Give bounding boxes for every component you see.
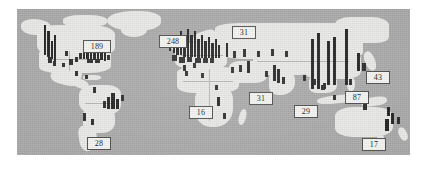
bar-eu-7 (190, 35, 193, 57)
bar-eurasia-4 (257, 51, 260, 57)
bar-eu-15 (218, 45, 220, 58)
bar-africa-5 (217, 97, 220, 106)
callout-189: 189 (83, 40, 111, 53)
bar-sa-chile-1 (83, 113, 86, 121)
bar-ea-japan-1 (357, 53, 360, 71)
bar-na-west-6 (53, 61, 56, 66)
bar-na-east-7 (104, 53, 106, 61)
bar-eu-12 (208, 37, 210, 58)
landmass-new-zealand (396, 126, 409, 142)
bar-eu-16 (172, 55, 177, 61)
bar-na-east-9 (95, 59, 100, 63)
bar-na-west-1 (44, 25, 46, 55)
bar-na-interior-3 (75, 57, 78, 62)
world-map-plate: 189 248 31 43 87 16 31 29 28 17 (17, 9, 410, 155)
bar-au-1 (363, 103, 367, 110)
bar-ea-1 (311, 39, 314, 89)
bar-na-east-8 (87, 59, 93, 63)
callout-87: 87 (345, 91, 369, 104)
landmass-siberia-east (335, 17, 389, 43)
bar-eu-11 (204, 41, 207, 58)
callout-28: 28 (87, 137, 111, 150)
landmass-canada-islands (63, 15, 107, 27)
callout-43: 43 (366, 71, 390, 84)
bar-eu-south-2 (193, 63, 196, 68)
bar-ea-6 (321, 85, 325, 90)
bar-india-2 (277, 69, 280, 83)
bar-au-3 (391, 113, 394, 124)
bar-ea-5 (345, 29, 348, 85)
bar-eu-10 (201, 35, 203, 58)
bar-eu-6 (187, 29, 189, 57)
bar-eurasia-3 (243, 49, 246, 57)
bar-africa-3 (215, 85, 218, 90)
border-lines-africa (183, 81, 233, 82)
bar-ea-4 (333, 37, 336, 85)
bar-india-3 (282, 77, 285, 84)
bar-eurasia-1 (226, 43, 228, 57)
bar-sea-3 (333, 95, 336, 100)
bar-eurasia-6 (285, 51, 288, 57)
callout-31-north: 31 (232, 26, 256, 39)
bar-na-west-4 (54, 35, 56, 61)
bar-au-2 (387, 107, 390, 116)
landmass-greenland-lobe (121, 23, 147, 37)
bar-eu-20 (203, 58, 208, 63)
bar-sa-argentina-1 (91, 119, 94, 125)
callout-31-south: 31 (249, 92, 273, 105)
bar-central-america-1 (75, 71, 78, 76)
callout-29: 29 (294, 105, 318, 118)
bar-central-america-2 (85, 75, 88, 79)
bar-ea-7 (303, 75, 306, 81)
callout-248: 248 (159, 35, 187, 48)
figure-canvas: 189 248 31 43 87 16 31 29 28 17 (0, 0, 426, 173)
bar-middle-east-2 (239, 65, 242, 72)
bar-eu-17 (179, 57, 185, 63)
bar-eu-14 (215, 39, 217, 58)
bar-sea-4 (349, 79, 352, 85)
bar-na-interior-2 (69, 59, 73, 65)
callout-16: 16 (189, 106, 213, 119)
bar-eurasia-2 (233, 51, 236, 58)
bar-au-5 (397, 117, 400, 124)
bar-eu-18 (187, 57, 192, 62)
landmass-madagascar (237, 108, 248, 125)
bar-na-west-5 (48, 57, 52, 63)
bar-eurasia-5 (271, 49, 274, 56)
bar-na-west-2 (47, 31, 50, 57)
bar-africa-1 (185, 71, 188, 76)
bar-sa-east-1 (121, 95, 124, 101)
bar-na-interior-4 (62, 63, 65, 67)
bar-na-east-10 (79, 53, 82, 59)
bar-na-interior-1 (65, 51, 68, 56)
bar-middle-east-1 (231, 67, 234, 73)
bar-na-east-11 (107, 55, 110, 60)
bar-middle-east-3 (247, 61, 250, 73)
bar-eu-8 (194, 31, 196, 57)
bar-sa-brazil-3 (116, 99, 119, 109)
bar-india-4 (265, 71, 268, 77)
bar-africa-2 (201, 73, 204, 78)
bar-ea-3 (327, 41, 330, 85)
bar-ea-japan-2 (362, 63, 366, 71)
bar-eu-13 (211, 43, 214, 58)
bar-eu-21 (210, 58, 214, 63)
bar-sa-brazil-1 (107, 97, 110, 109)
bar-eu-9 (197, 39, 200, 58)
callout-17: 17 (362, 138, 386, 151)
bar-sa-brazil-4 (103, 101, 106, 108)
bar-ea-2 (317, 33, 320, 89)
bar-au-4 (385, 119, 389, 131)
bar-sa-north-1 (93, 87, 96, 93)
bar-india-1 (273, 65, 276, 81)
bar-africa-4 (223, 113, 226, 119)
bar-sa-brazil-2 (111, 93, 115, 109)
